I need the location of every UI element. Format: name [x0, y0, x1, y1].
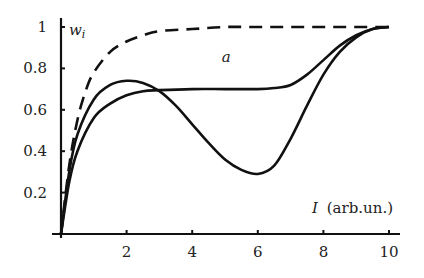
x-tick-label: 10 [379, 243, 398, 261]
y-tick-label: 1 [37, 18, 47, 36]
y-tick-label: 0.8 [23, 59, 47, 77]
x-axis-label: I (arb.un.) [311, 199, 393, 217]
y-tick-label: 0.2 [23, 184, 47, 202]
x-tick-label: 6 [253, 243, 263, 261]
y-tick-label: 0.4 [23, 142, 47, 160]
x-tick-label: 2 [122, 243, 132, 261]
curve-annotation-a: a [222, 48, 231, 66]
x-axis-label-var: I [311, 199, 319, 217]
y-ticks: 0.20.40.60.81 [23, 18, 65, 202]
x-tick-label: 8 [319, 243, 329, 261]
chart: 246810 0.20.40.60.81 wi I (arb.un.) a [0, 0, 424, 278]
x-tick-label: 4 [187, 243, 197, 261]
x-axis-label-unit: (arb.un.) [327, 199, 393, 217]
y-axis-label: wi [69, 21, 85, 41]
y-tick-label: 0.6 [23, 101, 47, 119]
